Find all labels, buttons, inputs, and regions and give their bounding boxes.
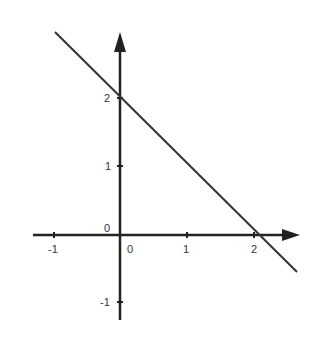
y-tick-label: -1: [100, 296, 110, 308]
x-tick-label: 0: [127, 243, 133, 255]
y-axis-arrow-icon: [114, 32, 126, 52]
y-tick-label-origin: 0: [104, 222, 110, 234]
y-tick-label: 1: [105, 160, 111, 172]
x-tick-label: -1: [48, 243, 58, 255]
chart: -1 0 1 2 2 1 0 -1: [0, 0, 315, 345]
x-axis-arrow-icon: [282, 229, 300, 241]
x-tick-label: 1: [183, 243, 189, 255]
x-tick-label: 2: [251, 243, 257, 255]
y-tick-label: 2: [104, 92, 110, 104]
